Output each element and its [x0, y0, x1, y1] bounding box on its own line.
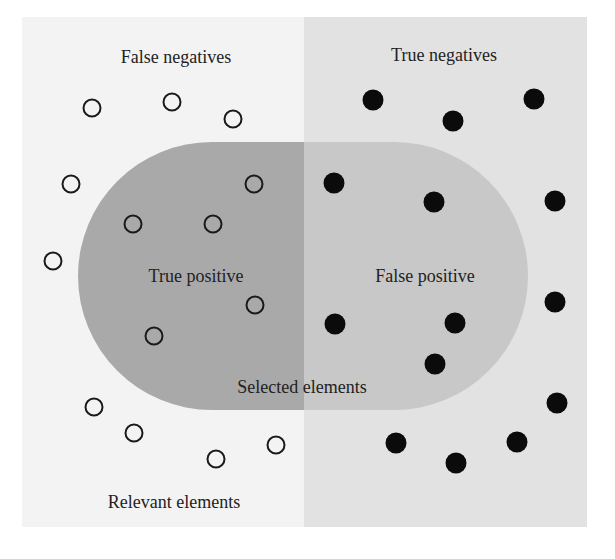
irrelevant-element-dot	[545, 292, 566, 313]
false-positive-label: False positive	[375, 267, 475, 285]
relevant-element-dot	[125, 424, 144, 443]
irrelevant-element-dot	[324, 173, 345, 194]
relevant-element-dot	[85, 398, 104, 417]
irrelevant-element-dot	[443, 111, 464, 132]
irrelevant-element-dot	[547, 393, 568, 414]
irrelevant-element-dot	[446, 453, 467, 474]
relevant-element-dot	[83, 99, 102, 118]
irrelevant-element-dot	[386, 433, 407, 454]
false-negatives-label: False negatives	[121, 48, 231, 66]
irrelevant-element-dot	[325, 314, 346, 335]
irrelevant-element-dot	[363, 90, 384, 111]
irrelevant-element-dot	[445, 313, 466, 334]
relevant-element-dot	[44, 252, 63, 271]
relevant-element-dot	[207, 450, 226, 469]
relevant-element-dot	[145, 327, 164, 346]
diagram-canvas: False negatives True negatives True posi…	[0, 0, 615, 559]
irrelevant-element-dot	[545, 191, 566, 212]
relevant-element-dot	[204, 215, 223, 234]
relevant-element-dot	[224, 110, 243, 129]
relevant-element-dot	[245, 175, 264, 194]
irrelevant-element-dot	[424, 192, 445, 213]
relevant-element-dot	[267, 436, 286, 455]
relevant-element-dot	[62, 175, 81, 194]
selected-elements-label: Selected elements	[237, 378, 366, 396]
irrelevant-element-dot	[524, 89, 545, 110]
true-negatives-label: True negatives	[391, 46, 497, 64]
irrelevant-element-dot	[425, 354, 446, 375]
relevant-element-dot	[246, 296, 265, 315]
relevant-element-dot	[124, 215, 143, 234]
relevant-elements-label: Relevant elements	[108, 493, 240, 511]
irrelevant-element-dot	[507, 432, 528, 453]
true-positive-label: True positive	[149, 267, 244, 285]
relevant-element-dot	[163, 93, 182, 112]
